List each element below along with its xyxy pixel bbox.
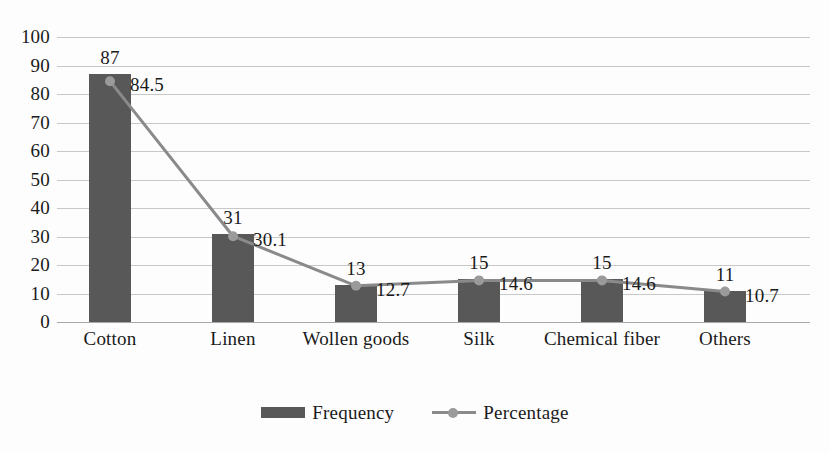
legend-item-frequency[interactable]: Frequency — [261, 403, 394, 422]
x-axis-label-chemical-fiber: Chemical fiber — [542, 328, 662, 350]
line-label-others: 10.7 — [745, 286, 779, 305]
y-axis-tick-90: 90 — [0, 56, 50, 75]
y-axis-tick-10: 10 — [0, 284, 50, 303]
y-axis: 1009080706050403020100 — [0, 37, 50, 322]
legend-line-marker — [448, 408, 458, 418]
x-axis-label-others: Others — [665, 328, 785, 350]
chart-legend: Frequency Percentage — [0, 403, 830, 422]
marker-wollen-goods[interactable] — [351, 281, 361, 291]
marker-chemical-fiber[interactable] — [597, 275, 607, 285]
marker-linen[interactable] — [228, 231, 238, 241]
y-axis-tick-100: 100 — [0, 27, 50, 46]
bar-label-cotton: 87 — [80, 48, 140, 67]
percentage-markers — [105, 76, 730, 296]
y-axis-tick-70: 70 — [0, 113, 50, 132]
marker-cotton[interactable] — [105, 76, 115, 86]
bar-label-chemical-fiber: 15 — [572, 253, 632, 272]
line-label-silk: 14.6 — [499, 274, 533, 293]
axis-baseline — [57, 322, 810, 323]
x-axis-label-silk: Silk — [419, 328, 539, 350]
x-axis: CottonLinenWollen goodsSilkChemical fibe… — [57, 328, 810, 388]
legend-label-percentage: Percentage — [483, 403, 568, 422]
line-label-wollen-goods: 12.7 — [376, 280, 410, 299]
y-axis-tick-50: 50 — [0, 170, 50, 189]
frequency-percentage-chart: 1009080706050403020100 873113151511 84.5… — [0, 0, 830, 452]
bar-swatch-icon — [261, 407, 305, 418]
y-axis-tick-80: 80 — [0, 84, 50, 103]
line-label-chemical-fiber: 14.6 — [622, 274, 656, 293]
bar-label-linen: 31 — [203, 208, 263, 227]
marker-others[interactable] — [720, 287, 730, 297]
y-axis-tick-30: 30 — [0, 227, 50, 246]
bar-label-others: 11 — [695, 265, 755, 284]
plot-area: 873113151511 84.530.112.714.614.610.7 — [57, 37, 810, 322]
x-axis-label-wollen-goods: Wollen goods — [296, 328, 416, 350]
marker-silk[interactable] — [474, 275, 484, 285]
y-axis-tick-0: 0 — [0, 312, 50, 331]
line-marker-icon — [432, 407, 476, 418]
bar-label-wollen-goods: 13 — [326, 259, 386, 278]
line-label-linen: 30.1 — [253, 230, 287, 249]
legend-item-percentage[interactable]: Percentage — [432, 403, 568, 422]
legend-label-frequency: Frequency — [312, 403, 394, 422]
y-axis-tick-20: 20 — [0, 255, 50, 274]
y-axis-tick-60: 60 — [0, 141, 50, 160]
bar-label-silk: 15 — [449, 253, 509, 272]
y-axis-tick-40: 40 — [0, 198, 50, 217]
x-axis-label-cotton: Cotton — [50, 328, 170, 350]
percentage-line — [110, 81, 725, 291]
x-axis-label-linen: Linen — [173, 328, 293, 350]
line-label-cotton: 84.5 — [130, 75, 164, 94]
